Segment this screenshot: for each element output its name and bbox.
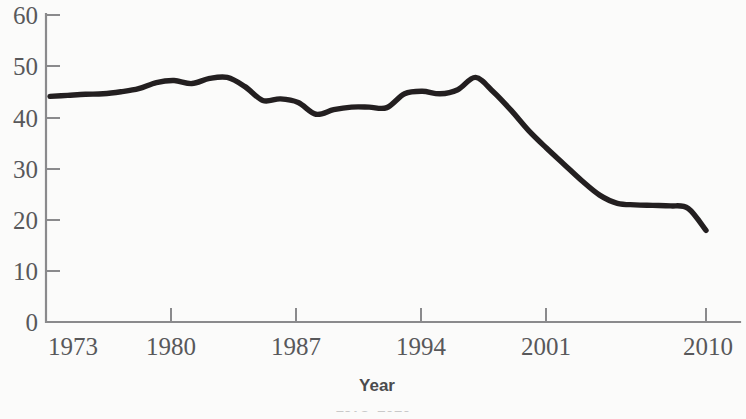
ytick-label-10: 10 bbox=[13, 258, 38, 285]
x-axis-tick-labels: 1973 1980 1987 1994 2001 2010 bbox=[48, 333, 733, 360]
ytick-label-20: 20 bbox=[13, 207, 38, 234]
figure-caption-text: 1973–2010 bbox=[0, 411, 746, 415]
ytick-label-30: 30 bbox=[13, 156, 38, 183]
axis-lines bbox=[46, 14, 740, 322]
ytick-label-0: 0 bbox=[26, 309, 39, 336]
xtick-label-1973: 1973 bbox=[48, 333, 98, 360]
xtick-label-2010: 2010 bbox=[683, 333, 733, 360]
line-chart: 60 50 40 30 20 10 0 1973 1980 1987 1994 … bbox=[0, 0, 746, 419]
figure-caption-clipped: 1973–2010 bbox=[0, 411, 746, 419]
y-tick-marks bbox=[46, 15, 60, 271]
y-axis-tick-labels: 60 50 40 30 20 10 0 bbox=[13, 2, 38, 336]
x-tick-marks bbox=[171, 308, 706, 322]
xtick-label-2001: 2001 bbox=[521, 333, 571, 360]
ytick-label-60: 60 bbox=[13, 2, 38, 29]
ytick-label-40: 40 bbox=[13, 105, 38, 132]
chart-figure: 60 50 40 30 20 10 0 1973 1980 1987 1994 … bbox=[0, 0, 746, 419]
ytick-label-50: 50 bbox=[13, 53, 38, 80]
xtick-label-1994: 1994 bbox=[396, 333, 447, 360]
xtick-label-1987: 1987 bbox=[271, 333, 321, 360]
x-axis-title: Year bbox=[359, 376, 395, 395]
data-series-line bbox=[50, 77, 706, 231]
xtick-label-1980: 1980 bbox=[146, 333, 196, 360]
